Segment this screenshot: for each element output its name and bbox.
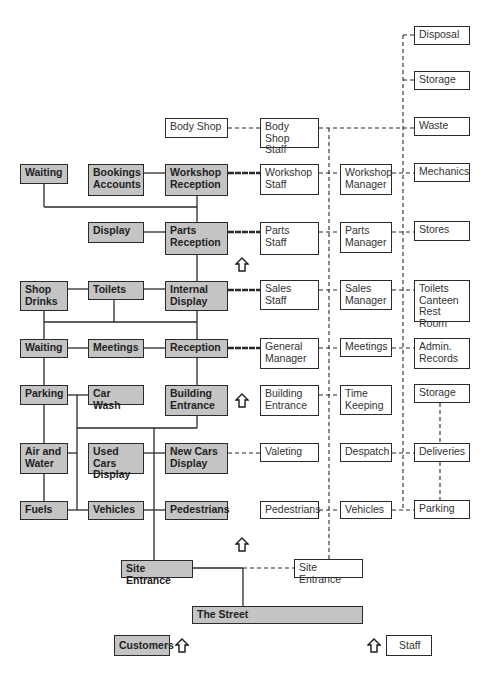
area-internal-display: Internal Display — [165, 281, 228, 311]
area-fuels: Fuels — [20, 501, 68, 520]
customer-arrow-icon — [175, 638, 189, 653]
staff-waste: Waste — [414, 117, 470, 136]
entrance-arrow-icon — [235, 257, 249, 272]
staff-workshop-staff: Workshop Staff — [260, 164, 319, 195]
staff-mechanics: Mechanics — [414, 163, 470, 182]
area-air-and-water: Air and Water — [20, 443, 68, 474]
legend-staff: Staff — [386, 635, 432, 656]
staff-site-entrance: Site Entrance — [294, 559, 363, 578]
staff-sales-manager: Sales Manager — [340, 280, 392, 310]
staff-disposal: Disposal — [414, 26, 470, 45]
staff-parts-staff: Parts Staff — [260, 222, 319, 255]
staff-despatch: Despatch — [340, 443, 392, 462]
staff-admin-records: Admin. Records — [414, 338, 470, 369]
staff-parking: Parking — [414, 500, 470, 519]
area-the-street: The Street — [192, 606, 363, 624]
area-display: Display — [88, 222, 144, 243]
area-parking: Parking — [20, 385, 68, 405]
area-waiting-2: Waiting — [20, 339, 68, 358]
area-building-entrance: Building Entrance — [165, 385, 228, 416]
staff-parts-manager: Parts Manager — [340, 222, 392, 253]
area-pedestrians: Pedestrians — [165, 501, 228, 520]
area-car-wash: Car Wash — [88, 385, 144, 405]
entrance-arrow-icon — [235, 393, 249, 408]
staff-workshop-manager: Workshop Manager — [340, 164, 392, 195]
facility-flow-diagram: Waiting Bookings Accounts Workshop Recep… — [0, 0, 491, 677]
area-parts-reception: Parts Reception — [165, 222, 228, 255]
area-shop-drinks: Shop Drinks — [20, 281, 68, 311]
staff-meetings: Meetings — [340, 338, 392, 357]
area-workshop-reception: Workshop Reception — [165, 164, 228, 196]
area-toilets: Toilets — [88, 281, 144, 300]
staff-pedestrians: Pedestrians — [260, 501, 319, 519]
staff-building-entrance: Building Entrance — [260, 385, 319, 416]
staff-storage-2: Storage — [414, 384, 470, 403]
staff-valeting: Valeting — [260, 443, 319, 462]
staff-vehicles: Vehicles — [340, 501, 392, 519]
area-waiting: Waiting — [20, 164, 68, 184]
legend-customers: Customers — [114, 635, 170, 656]
staff-body-shop: Body Shop — [165, 118, 228, 138]
staff-deliveries: Deliveries — [414, 443, 470, 462]
staff-body-shop-staff: Body Shop Staff — [260, 118, 319, 148]
area-meetings: Meetings — [88, 339, 144, 358]
area-site-entrance: Site Entrance — [121, 560, 193, 578]
area-new-cars-display: New Cars Display — [165, 443, 228, 474]
staff-time-keeping: Time Keeping — [340, 385, 392, 415]
staff-storage: Storage — [414, 71, 470, 90]
entrance-arrow-icon — [235, 537, 249, 552]
area-reception: Reception — [165, 339, 228, 358]
staff-arrow-icon — [367, 638, 381, 653]
staff-sales-staff: Sales Staff — [260, 280, 319, 310]
staff-stores: Stores — [414, 221, 470, 241]
area-bookings-accounts: Bookings Accounts — [88, 164, 144, 196]
area-vehicles: Vehicles — [88, 501, 144, 520]
staff-toilets-canteen-rest-room: Toilets Canteen Rest Room — [414, 280, 470, 322]
area-used-cars-display: Used Cars Display — [88, 443, 144, 474]
staff-general-manager: General Manager — [260, 338, 319, 369]
